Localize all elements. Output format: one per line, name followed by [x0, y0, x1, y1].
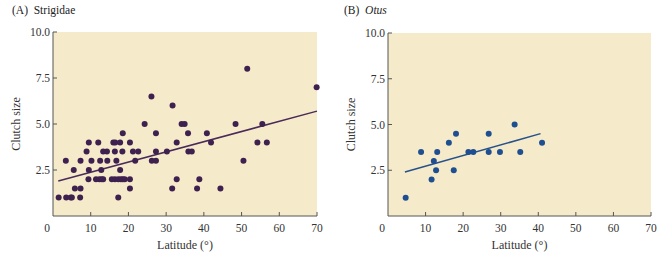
- data-point: [429, 176, 435, 182]
- data-point: [470, 149, 476, 155]
- data-point: [174, 176, 180, 182]
- data-point: [434, 149, 440, 155]
- chart-panel-a: 0102030405060702.55.07.510.0Latitude (°)…: [0, 0, 332, 257]
- data-point: [127, 185, 133, 191]
- data-point: [185, 130, 191, 136]
- y-tick-label: 2.5: [371, 164, 386, 176]
- data-point: [497, 149, 503, 155]
- plot-area: [388, 33, 651, 216]
- data-point: [84, 149, 90, 155]
- x-tick-label: 50: [570, 222, 582, 234]
- data-point: [233, 121, 239, 127]
- data-point: [446, 140, 452, 146]
- data-point: [100, 176, 106, 182]
- data-point: [264, 139, 270, 145]
- data-point: [78, 185, 84, 191]
- y-tick-label: 7.5: [36, 72, 51, 84]
- data-point: [71, 167, 77, 173]
- data-point: [132, 158, 138, 164]
- data-point: [153, 158, 159, 164]
- data-point: [69, 195, 75, 201]
- x-tick-label: 60: [274, 222, 286, 234]
- x-tick-label: 10: [85, 222, 97, 234]
- data-point: [88, 158, 94, 164]
- data-point: [115, 195, 121, 201]
- x-tick-label: 10: [420, 222, 432, 234]
- x-tick-label: 40: [533, 222, 545, 234]
- data-point: [113, 158, 119, 164]
- figure: (A) Strigidae (B) Otus 0102030405060702.…: [0, 0, 664, 257]
- y-tick-label: 5.0: [36, 118, 51, 130]
- data-point: [174, 139, 180, 145]
- data-point: [486, 131, 492, 137]
- data-point: [127, 176, 133, 182]
- data-point: [512, 122, 518, 128]
- data-point: [86, 139, 92, 145]
- x-tick-label: 40: [198, 222, 210, 234]
- y-tick-label: 10.0: [30, 26, 50, 38]
- data-point: [86, 167, 92, 173]
- data-point: [127, 139, 133, 145]
- data-point: [63, 158, 69, 164]
- x-tick-label: 70: [645, 222, 657, 234]
- data-point: [72, 185, 78, 191]
- data-point: [170, 103, 176, 109]
- data-point: [240, 158, 246, 164]
- y-tick-label: 2.5: [36, 164, 51, 176]
- x-axis-label: Latitude (°): [492, 238, 548, 252]
- data-point: [117, 167, 123, 173]
- data-point: [453, 131, 459, 137]
- data-point: [104, 149, 110, 155]
- data-point: [196, 176, 202, 182]
- data-point: [451, 167, 457, 173]
- data-point: [153, 149, 159, 155]
- data-point: [119, 149, 125, 155]
- data-point: [97, 158, 103, 164]
- data-point: [142, 121, 148, 127]
- data-point: [130, 149, 136, 155]
- data-point: [204, 130, 210, 136]
- data-point: [98, 167, 104, 173]
- data-point: [120, 130, 126, 136]
- y-tick-label: 10.0: [365, 27, 385, 39]
- data-point: [117, 139, 123, 145]
- x-tick-label: 0: [44, 222, 50, 234]
- x-tick-label: 20: [457, 222, 469, 234]
- data-point: [244, 66, 250, 72]
- x-tick-label: 20: [123, 222, 135, 234]
- data-point: [169, 185, 175, 191]
- data-point: [418, 149, 424, 155]
- data-point: [135, 149, 141, 155]
- data-point: [78, 158, 84, 164]
- data-point: [539, 140, 545, 146]
- data-point: [153, 130, 159, 136]
- data-point: [182, 121, 188, 127]
- data-point: [56, 195, 62, 201]
- y-tick-label: 5.0: [371, 119, 386, 131]
- x-axis-label: Latitude (°): [157, 238, 213, 252]
- y-tick-label: 7.5: [371, 73, 386, 85]
- x-tick-label: 60: [608, 222, 620, 234]
- data-point: [77, 195, 83, 201]
- x-tick-label: 0: [379, 222, 385, 234]
- data-point: [95, 139, 101, 145]
- data-point: [314, 84, 320, 90]
- x-tick-label: 30: [495, 222, 507, 234]
- data-point: [208, 139, 214, 145]
- data-point: [194, 185, 200, 191]
- chart-panel-b: 0102030405060702.55.07.510.0Latitude (°)…: [332, 0, 664, 257]
- data-point: [403, 195, 409, 201]
- data-point: [217, 185, 223, 191]
- data-point: [85, 176, 91, 182]
- data-point: [164, 149, 170, 155]
- data-point: [112, 149, 118, 155]
- data-point: [104, 158, 110, 164]
- data-point: [254, 139, 260, 145]
- data-point: [259, 121, 265, 127]
- data-point: [189, 149, 195, 155]
- data-point: [431, 158, 437, 164]
- data-point: [433, 167, 439, 173]
- y-axis-label: Clutch size: [9, 97, 23, 151]
- x-tick-label: 70: [311, 222, 323, 234]
- data-point: [486, 149, 492, 155]
